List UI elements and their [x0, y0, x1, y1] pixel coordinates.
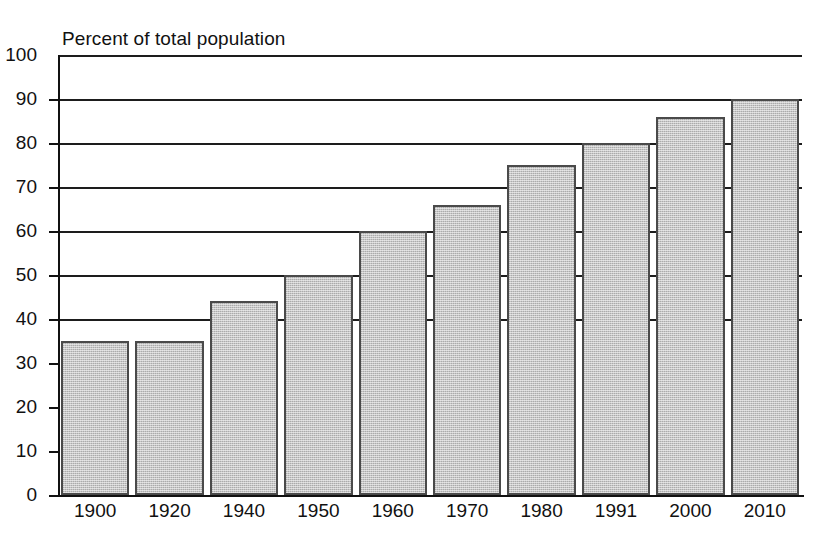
x-axis-tick-label: 1940	[223, 500, 265, 522]
x-axis-line	[58, 495, 804, 497]
y-tick-mark-80	[49, 143, 58, 145]
y-axis-tick-label: 10	[0, 440, 37, 462]
x-axis-tick-label: 1900	[74, 500, 116, 522]
x-axis-labels: 1900192019401950196019701980199120002010	[58, 500, 802, 540]
y-tick-mark-90	[49, 99, 58, 101]
y-tick-mark-40	[49, 319, 58, 321]
y-axis-tick-label: 70	[0, 176, 37, 198]
y-axis-tick-label: 90	[0, 88, 37, 110]
y-tick-mark-10	[49, 451, 58, 453]
bar-1950	[284, 275, 352, 495]
y-axis-line	[58, 55, 60, 495]
y-tick-mark-20	[49, 407, 58, 409]
y-axis-tick-label: 20	[0, 396, 37, 418]
y-axis-tick-label: 100	[0, 44, 37, 66]
x-axis-tick-label: 1980	[520, 500, 562, 522]
y-axis-tick-label: 80	[0, 132, 37, 154]
x-axis-tick-label: 1950	[297, 500, 339, 522]
y-axis-tick-label: 0	[0, 484, 37, 506]
bar-1920	[135, 341, 203, 495]
x-axis-tick-label: 2010	[744, 500, 786, 522]
bar-chart: Percent of total population 010203040506…	[0, 0, 821, 543]
bar-1900	[61, 341, 129, 495]
bars-layer	[58, 55, 802, 495]
bar-2010	[731, 99, 799, 495]
y-tick-mark-70	[49, 187, 58, 189]
bar-1970	[433, 205, 501, 495]
x-axis-tick-label: 1960	[372, 500, 414, 522]
y-tick-mark-60	[49, 231, 58, 233]
y-axis-tick-label: 60	[0, 220, 37, 242]
y-tick-mark-30	[49, 363, 58, 365]
bar-1991	[582, 143, 650, 495]
y-tick-mark-50	[49, 275, 58, 277]
x-axis-tick-label: 1970	[446, 500, 488, 522]
bar-1980	[507, 165, 575, 495]
x-axis-tick-label: 1920	[148, 500, 190, 522]
chart-title: Percent of total population	[62, 28, 285, 50]
x-axis-tick-label: 1991	[595, 500, 637, 522]
bar-2000	[656, 117, 724, 495]
y-axis-tick-label: 30	[0, 352, 37, 374]
y-axis-tick-label: 40	[0, 308, 37, 330]
y-tick-mark-0	[49, 495, 58, 497]
bar-1940	[210, 301, 278, 495]
x-axis-tick-label: 2000	[669, 500, 711, 522]
y-axis-tick-label: 50	[0, 264, 37, 286]
plot-area: 0102030405060708090100	[58, 55, 802, 495]
bar-1960	[359, 231, 427, 495]
